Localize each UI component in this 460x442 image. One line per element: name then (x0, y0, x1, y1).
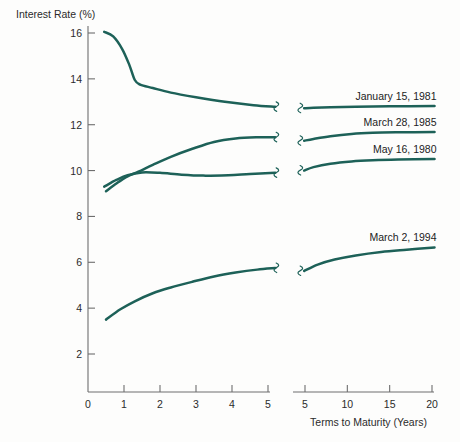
series-label-2: May 16, 1980 (373, 143, 437, 155)
series-label-1: March 28, 1985 (364, 116, 437, 128)
x-tick-label-right-5: 5 (302, 398, 308, 410)
y-axis-title: Interest Rate (%) (16, 8, 95, 20)
curve-left-2 (104, 172, 275, 186)
x-tick-label-left-0: 0 (85, 398, 91, 410)
curve-right-3 (304, 247, 434, 271)
break-mark-right-1 (298, 136, 303, 146)
break-mark-right-3 (298, 266, 303, 276)
curve-left-1 (106, 137, 275, 191)
chart-canvas: 2468101214160123455101520January 15, 198… (0, 0, 460, 442)
y-tick-label-10: 10 (70, 165, 82, 177)
y-tick-label-14: 14 (70, 73, 82, 85)
x-tick-label-left-1: 1 (121, 398, 127, 410)
y-tick-label-12: 12 (70, 119, 82, 131)
curve-left-3 (106, 268, 275, 320)
series-label-0: January 15, 1981 (355, 90, 436, 102)
y-tick-label-6: 6 (76, 256, 82, 268)
x-tick-label-right-10: 10 (341, 398, 353, 410)
curve-right-2 (304, 159, 434, 170)
y-tick-label-16: 16 (70, 27, 82, 39)
x-tick-label-left-2: 2 (157, 398, 163, 410)
x-tick-label-right-15: 15 (384, 398, 396, 410)
curve-right-1 (304, 132, 434, 141)
x-tick-label-left-3: 3 (193, 398, 199, 410)
curve-left-0 (104, 32, 275, 107)
y-tick-label-2: 2 (76, 348, 82, 360)
x-tick-label-left-5: 5 (265, 398, 271, 410)
y-tick-label-8: 8 (76, 210, 82, 222)
series-label-3: March 2, 1994 (369, 231, 436, 243)
curve-right-0 (304, 106, 434, 108)
x-axis-title: Terms to Maturity (Years) (310, 416, 427, 428)
yield-curve-chart: 2468101214160123455101520January 15, 198… (0, 0, 460, 442)
x-tick-label-right-20: 20 (426, 398, 438, 410)
y-tick-label-4: 4 (76, 302, 82, 314)
break-mark-right-0 (298, 103, 303, 113)
break-mark-right-2 (298, 166, 303, 176)
x-tick-label-left-4: 4 (229, 398, 235, 410)
